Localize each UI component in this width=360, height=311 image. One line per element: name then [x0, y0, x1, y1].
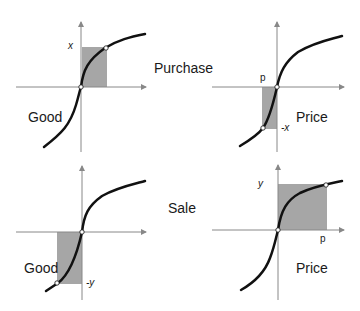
axis-label-price: Price — [296, 260, 328, 276]
curve-point — [324, 183, 328, 187]
marker-label-neg-y: -y — [86, 277, 94, 288]
marker-label-y: y — [258, 178, 263, 189]
panel-purchase-good — [16, 22, 146, 152]
panel-sale-good — [16, 166, 146, 300]
axis-label-good: Good — [28, 109, 62, 125]
panel-purchase-price — [212, 22, 344, 152]
curve — [240, 36, 342, 146]
axis-label-price: Price — [296, 109, 328, 125]
marker-label-neg-x: -x — [281, 122, 289, 133]
marker-label-p: p — [320, 233, 326, 244]
curve-point — [104, 46, 108, 50]
curve-point — [55, 281, 59, 285]
curve-point — [261, 126, 265, 130]
label-sale: Sale — [168, 200, 196, 216]
origin-point — [275, 85, 279, 89]
origin-point — [80, 230, 84, 234]
shaded-area — [57, 232, 82, 284]
marker-label-p: p — [260, 72, 266, 83]
marker-label-x: x — [68, 40, 73, 51]
axis-label-good: Good — [24, 260, 58, 276]
label-purchase: Purchase — [154, 60, 213, 76]
origin-point — [79, 85, 83, 89]
origin-point — [276, 228, 280, 232]
